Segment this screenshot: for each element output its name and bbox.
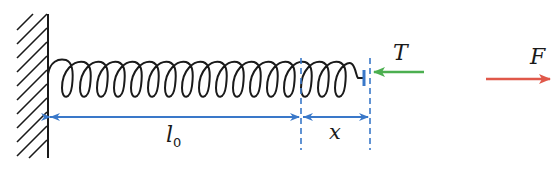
natural-length-symbol: l [166,122,173,147]
natural-length-subscript: 0 [173,135,181,150]
wall [17,14,48,158]
spring-diagram [0,0,557,172]
extension-label: x [329,120,341,144]
force-label: F [530,44,545,69]
natural-length-label: l0 [166,122,181,147]
tension-label: T [393,40,408,65]
spring [48,60,364,97]
wall-hatching [17,14,47,158]
